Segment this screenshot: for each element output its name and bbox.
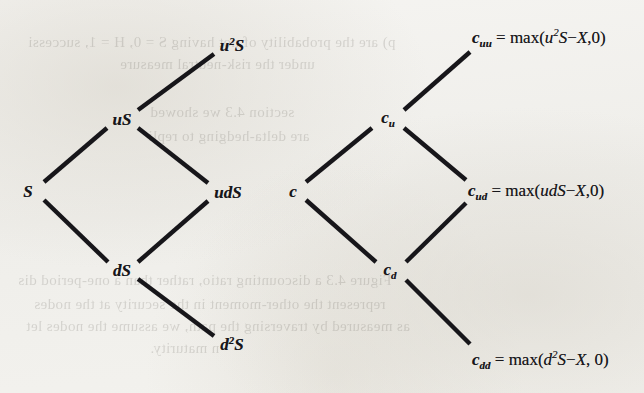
tree-branch — [306, 200, 376, 262]
subscript: u — [389, 117, 395, 129]
option-tree-branches — [306, 52, 470, 344]
symbol: S — [23, 182, 32, 201]
math-symbol: − — [566, 181, 576, 200]
tree-branch — [404, 128, 466, 180]
asset-node-dS: dS — [113, 262, 131, 279]
tree-branch — [306, 128, 372, 182]
math-symbol: = — [492, 28, 510, 47]
payoff-cuu: cuu = max(u2S−X,0) — [472, 27, 606, 49]
math-operator-text: max( — [510, 28, 545, 47]
subscript: ud — [476, 190, 488, 202]
subscript: d — [391, 269, 397, 281]
asset-node-udS: udS — [214, 184, 241, 201]
asset-node-ddS: d2S — [220, 335, 243, 354]
tree-branch — [44, 128, 107, 182]
symbol: uS — [113, 110, 132, 129]
math-operator-text: ,0) — [586, 181, 604, 200]
math-variable: d — [544, 350, 553, 369]
symbol: c — [289, 182, 297, 201]
subscript: dd — [480, 359, 491, 371]
symbol: udS — [214, 183, 241, 202]
tree-branch — [406, 280, 470, 344]
tree-branch — [44, 200, 108, 262]
option-node-cu: cu — [381, 109, 395, 129]
math-variable: X — [576, 350, 586, 369]
option-symbol: c — [468, 181, 476, 200]
math-symbol: − — [567, 28, 577, 47]
option-symbol: c — [472, 28, 480, 47]
asset-node-uS: uS — [113, 111, 132, 128]
math-variable: X — [577, 28, 587, 47]
math-operator-text: max( — [509, 350, 544, 369]
tree-branch — [404, 52, 470, 110]
symbol: S — [234, 335, 243, 354]
tree-branch — [138, 54, 214, 110]
option-node-cd: cd — [383, 261, 396, 281]
tree-branch — [138, 279, 214, 336]
payoff-cud: cud = max(udS−X,0) — [468, 182, 604, 202]
math-variable: udS — [540, 181, 566, 200]
math-operator-text: ,0) — [587, 28, 605, 47]
symbol: c — [381, 108, 389, 127]
tree-branch — [406, 203, 466, 262]
symbol: d — [220, 335, 229, 354]
option-node-c: c — [289, 183, 297, 200]
symbol: dS — [113, 261, 131, 280]
payoff-cdd: cdd = max(d2S−X, 0) — [472, 349, 609, 371]
math-variable: S — [558, 350, 567, 369]
math-symbol: = — [487, 181, 505, 200]
math-symbol: − — [566, 350, 576, 369]
symbol: c — [383, 260, 391, 279]
asset-node-uuS: u2S — [220, 36, 244, 55]
symbol: S — [235, 36, 244, 55]
math-symbol: = — [491, 350, 509, 369]
binomial-tree-figure: SuSdSu2SudSd2S ccucd cuu = max(u2S−X,0)c… — [0, 0, 644, 393]
option-symbol: c — [472, 350, 480, 369]
tree-branch — [138, 201, 208, 262]
asset-node-S: S — [23, 183, 32, 200]
asset-tree-branches — [44, 54, 214, 336]
math-operator-text: max( — [505, 181, 540, 200]
math-variable: X — [575, 181, 585, 200]
tree-branch — [138, 128, 208, 183]
math-operator-text: , 0) — [586, 350, 609, 369]
scanned-page: p) are the probability of not having S =… — [0, 0, 644, 393]
subscript: uu — [480, 37, 492, 49]
